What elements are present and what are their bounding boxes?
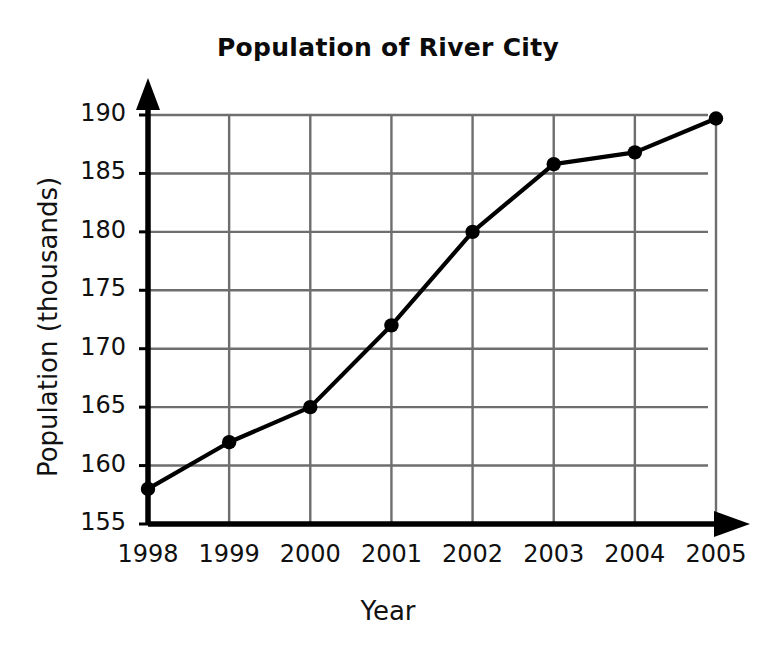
ytick-label-190: 190 <box>56 99 126 127</box>
data-point-1998 <box>141 482 155 496</box>
ytick-label-165: 165 <box>56 391 126 419</box>
ytick-label-170: 170 <box>56 333 126 361</box>
data-point-2001 <box>384 318 398 332</box>
ytick-label-185: 185 <box>56 157 126 185</box>
line-chart: Population of River City Population (tho… <box>0 0 776 663</box>
ytick-label-180: 180 <box>56 216 126 244</box>
data-point-1999 <box>222 435 236 449</box>
xtick-label-2003: 2003 <box>509 540 599 568</box>
data-point-2002 <box>465 225 479 239</box>
xtick-label-2000: 2000 <box>265 540 355 568</box>
xtick-label-1998: 1998 <box>103 540 193 568</box>
y-axis-arrowhead <box>136 78 160 110</box>
xtick-label-2005: 2005 <box>671 540 761 568</box>
ytick-label-160: 160 <box>56 450 126 478</box>
xtick-label-1999: 1999 <box>184 540 274 568</box>
data-point-2004 <box>628 145 642 159</box>
ytick-label-175: 175 <box>56 274 126 302</box>
data-point-2005 <box>709 111 723 125</box>
data-point-2000 <box>303 400 317 414</box>
horizontal-gridlines <box>148 115 708 466</box>
vertical-gridlines <box>229 115 716 524</box>
ytick-label-155: 155 <box>56 508 126 536</box>
xtick-label-2002: 2002 <box>428 540 518 568</box>
data-point-2003 <box>547 157 561 171</box>
xtick-label-2001: 2001 <box>346 540 436 568</box>
xtick-label-2004: 2004 <box>590 540 680 568</box>
x-axis-arrowhead <box>714 511 750 537</box>
